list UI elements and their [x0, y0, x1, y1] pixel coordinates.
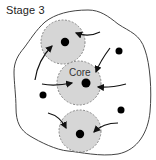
core-circle: Core [57, 61, 101, 105]
free-dot [116, 48, 123, 55]
free-dot [40, 92, 47, 99]
free-dot [118, 107, 125, 114]
top-circle [41, 20, 85, 64]
dot [61, 38, 69, 46]
core-dot [82, 79, 91, 88]
dot [76, 130, 84, 138]
core-label: Core [69, 67, 91, 78]
arrow-icon [96, 48, 110, 72]
arrow-icon [98, 84, 126, 87]
cell-diagram: Core [0, 0, 156, 160]
